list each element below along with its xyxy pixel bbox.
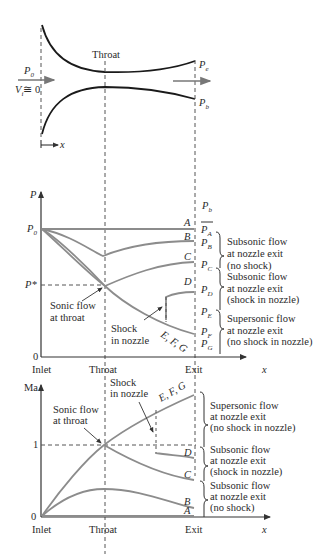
pg-label: PG (200, 338, 212, 352)
mach-label-C: C (184, 469, 192, 480)
m-shock-line2: in nozzle (110, 388, 149, 399)
p0-tick: P0 (26, 223, 37, 237)
m-regime-1-line3: (no shock in nozzle) (210, 422, 296, 434)
mach-axis-label: Ma (24, 382, 38, 393)
p-sonic-line2: at throat (50, 312, 85, 323)
p-regime-2-line2: at nozzle exit (227, 283, 283, 294)
x-tick-throat: Throat (89, 364, 117, 375)
inlet-velocity-label: Vi≅ 0 (15, 84, 40, 98)
m-regime-3-line2: at nozzle exit (210, 491, 266, 502)
p-regime-3-line1: Supersonic flow (227, 313, 296, 324)
m-sonic-line1: Sonic flow (53, 404, 99, 415)
mach-label-B: B (184, 496, 191, 507)
pe-label: PE (200, 306, 212, 320)
x-tick-inlet: Inlet (32, 364, 51, 375)
p-shock-line1: Shock (111, 323, 138, 334)
m-regime-1-line2: at nozzle exit (210, 411, 266, 422)
p-regime-3-line3: (no shock in nozzle) (227, 336, 313, 348)
inlet-pressure-label: P0 (23, 65, 34, 79)
pressure-plot: P P0 P* 0 Inlet Throat Exit x Pb A B C D… (24, 189, 313, 375)
curve-C (42, 229, 194, 286)
m-sonic-line2: at throat (53, 415, 88, 426)
m-regime-2-line3: (shock in nozzle) (210, 466, 283, 478)
mach-plot: Ma 1 0 Inlet Throat Exit x A B C D E, F,… (24, 377, 296, 535)
p-regime-3-line2: at nozzle exit (227, 325, 283, 336)
converging-diverging-nozzle-diagram: x Throat P0 Vi≅ 0 Pe Pb P P0 P* 0 Inlet … (0, 0, 324, 554)
pc-label: PC (200, 259, 212, 273)
m-regime-3-line3: (no shock) (210, 502, 255, 514)
curve-B (42, 229, 194, 256)
nozzle-lower-wall (42, 87, 195, 134)
p-regime-2-line1: Subsonic flow (227, 271, 288, 282)
mach-label-D: D (183, 447, 192, 458)
p-regime-1-line1: Subsonic flow (227, 236, 288, 247)
m-shock-line1: Shock (110, 377, 137, 388)
pb-label: PB (200, 237, 212, 251)
mach-x-tick-exit: Exit (185, 524, 203, 535)
p-regime-2-line3: (shock in nozzle) (227, 294, 300, 306)
m-regime-3-line1: Subsonic flow (210, 480, 271, 491)
mach-tick-0: 0 (31, 511, 36, 522)
exit-pressure-label: Pe (198, 59, 209, 73)
throat-label: Throat (92, 49, 120, 60)
back-pressure-label: Pb (198, 97, 209, 111)
m-regime-2-line2: at nozzle exit (210, 455, 266, 466)
mach-curve-C (104, 445, 194, 480)
pb-header: Pb (201, 200, 212, 214)
label-A: A (183, 217, 191, 228)
x-label: x (59, 139, 65, 150)
m-regime-2-line1: Subsonic flow (210, 444, 271, 455)
mach-x-tick-inlet: Inlet (32, 524, 51, 535)
mach-x-label: x (261, 524, 267, 535)
p-sonic-line1: Sonic flow (50, 300, 96, 311)
pd-label: PD (200, 284, 212, 298)
mach-x-tick-throat: Throat (89, 524, 117, 535)
mach-tick-1: 1 (33, 439, 38, 450)
pressure-x-label: x (261, 364, 267, 375)
pstar-tick: P* (24, 279, 37, 290)
pressure-axis-label: P (29, 189, 37, 200)
p-shock-line2: in nozzle (111, 335, 150, 346)
label-C: C (184, 251, 192, 262)
p-regime-1-line2: at nozzle exit (227, 248, 283, 259)
zero-tick: 0 (33, 351, 38, 362)
curve-D-shock (166, 292, 194, 320)
mach-curve-B (42, 489, 194, 516)
label-D: D (183, 276, 192, 287)
x-tick-exit: Exit (185, 364, 203, 375)
m-regime-1-line1: Supersonic flow (210, 400, 279, 411)
pa-label: PA (200, 224, 212, 238)
nozzle-sketch: x Throat P0 Vi≅ 0 Pe Pb (15, 25, 210, 554)
label-B: B (184, 231, 191, 242)
